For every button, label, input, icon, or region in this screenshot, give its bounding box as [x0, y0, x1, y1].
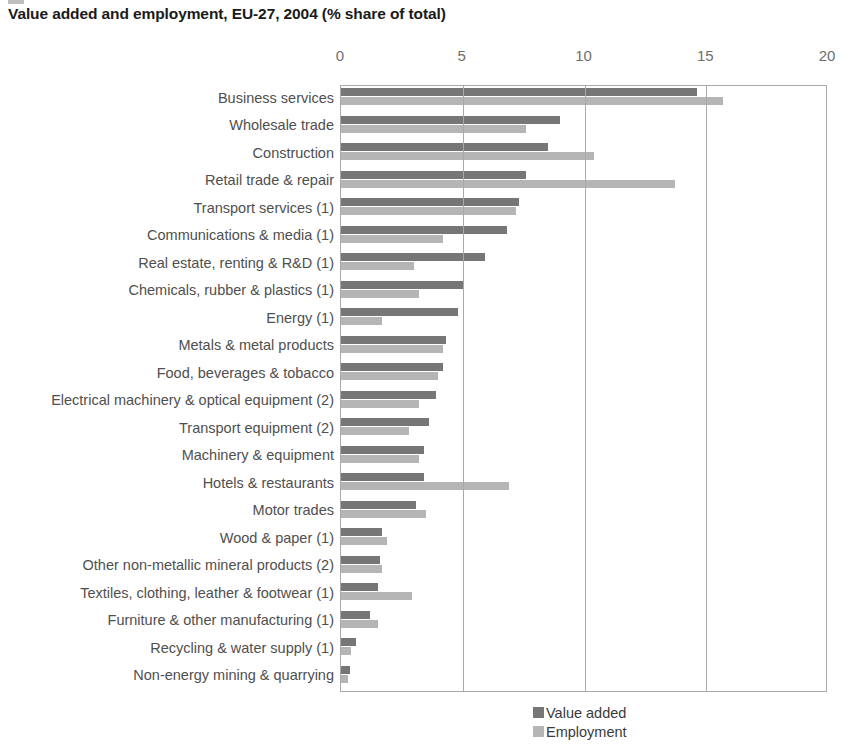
gridline [463, 86, 464, 691]
bar-value-added [341, 473, 424, 481]
bar-employment [341, 125, 526, 133]
bar-employment [341, 427, 409, 435]
category-label: Business services [0, 90, 334, 106]
bar-value-added [341, 638, 356, 646]
bar-row [341, 636, 826, 664]
category-label: Wood & paper (1) [0, 530, 334, 546]
category-label: Communications & media (1) [0, 227, 334, 243]
legend-swatch-icon [533, 726, 544, 737]
bar-employment [341, 290, 419, 298]
bar-row [341, 306, 826, 334]
x-tick-label: 10 [575, 47, 592, 64]
category-label: Textiles, clothing, leather & footwear (… [0, 585, 334, 601]
bar-row [341, 86, 826, 114]
bar-employment [341, 372, 438, 380]
bar-employment [341, 235, 443, 243]
bar-value-added [341, 446, 424, 454]
bar-rows [341, 86, 826, 691]
bar-value-added [341, 281, 463, 289]
category-label: Other non-metallic mineral products (2) [0, 557, 334, 573]
bar-value-added [341, 336, 446, 344]
bar-row [341, 169, 826, 197]
category-label: Chemicals, rubber & plastics (1) [0, 282, 334, 298]
bar-value-added [341, 583, 378, 591]
bar-value-added [341, 308, 458, 316]
chart-title: Value added and employment, EU-27, 2004 … [8, 5, 446, 23]
y-axis-category-labels: Business servicesWholesale tradeConstruc… [0, 85, 334, 692]
bar-value-added [341, 556, 380, 564]
bar-row [341, 581, 826, 609]
bar-value-added [341, 363, 443, 371]
category-label: Non-energy mining & quarrying [0, 667, 334, 683]
bar-employment [341, 400, 419, 408]
bar-row [341, 251, 826, 279]
plot-area [340, 85, 827, 692]
bar-row [341, 664, 826, 692]
bar-row [341, 609, 826, 637]
category-label: Hotels & restaurants [0, 475, 334, 491]
legend-label: Employment [546, 724, 627, 740]
bar-employment [341, 675, 348, 683]
bar-employment [341, 620, 378, 628]
bar-employment [341, 647, 351, 655]
bar-value-added [341, 391, 436, 399]
category-label: Furniture & other manufacturing (1) [0, 612, 334, 628]
bar-row [341, 334, 826, 362]
bar-value-added [341, 501, 416, 509]
bar-employment [341, 482, 509, 490]
legend-swatch-icon [533, 707, 544, 718]
bar-row [341, 499, 826, 527]
bar-employment [341, 152, 594, 160]
category-label: Recycling & water supply (1) [0, 640, 334, 656]
category-label: Machinery & equipment [0, 447, 334, 463]
bar-employment [341, 537, 387, 545]
bar-row [341, 416, 826, 444]
bar-value-added [341, 666, 350, 674]
bar-row [341, 279, 826, 307]
bar-employment [341, 565, 382, 573]
chart-figure: Value added and employment, EU-27, 2004 … [0, 0, 854, 749]
x-axis-tick-labels: 05101520 [0, 47, 854, 69]
category-label: Construction [0, 145, 334, 161]
bar-employment [341, 97, 723, 105]
bar-value-added [341, 611, 370, 619]
category-label: Retail trade & repair [0, 172, 334, 188]
gridline [706, 86, 707, 691]
bar-value-added [341, 418, 429, 426]
bar-value-added [341, 171, 526, 179]
bar-employment [341, 317, 382, 325]
category-label: Metals & metal products [0, 337, 334, 353]
bar-row [341, 114, 826, 142]
category-label: Real estate, renting & R&D (1) [0, 255, 334, 271]
bar-row [341, 389, 826, 417]
bar-row [341, 361, 826, 389]
x-tick-label: 0 [336, 47, 344, 64]
x-tick-label: 15 [697, 47, 714, 64]
x-tick-label: 5 [458, 47, 466, 64]
chart-legend: Value addedEmployment [533, 703, 733, 741]
bar-value-added [341, 198, 519, 206]
bar-employment [341, 455, 419, 463]
bar-row [341, 526, 826, 554]
category-label: Transport services (1) [0, 200, 334, 216]
bar-value-added [341, 116, 560, 124]
bar-employment [341, 180, 675, 188]
bar-row [341, 141, 826, 169]
bar-employment [341, 510, 426, 518]
gridline [585, 86, 586, 691]
bar-row [341, 224, 826, 252]
x-tick-label: 20 [819, 47, 836, 64]
legend-label: Value added [546, 705, 626, 721]
bar-value-added [341, 226, 507, 234]
bar-row [341, 444, 826, 472]
clipped-artifact [8, 0, 24, 4]
category-label: Motor trades [0, 502, 334, 518]
category-label: Energy (1) [0, 310, 334, 326]
category-label: Food, beverages & tobacco [0, 365, 334, 381]
bar-employment [341, 592, 412, 600]
category-label: Transport equipment (2) [0, 420, 334, 436]
bar-value-added [341, 528, 382, 536]
bar-employment [341, 262, 414, 270]
category-label: Electrical machinery & optical equipment… [0, 392, 334, 408]
bar-row [341, 196, 826, 224]
